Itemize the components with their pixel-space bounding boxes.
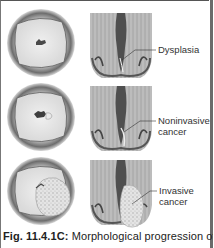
- tumor-mass: [120, 185, 143, 227]
- cervix-surface-view: [7, 83, 75, 151]
- label-line: cancer: [158, 127, 210, 138]
- caption-text: Morphological progression of: [69, 230, 214, 242]
- figure-number: Fig. 11.4.1C:: [3, 230, 69, 242]
- cervix-cross-section: [90, 86, 156, 151]
- figure-caption: Fig. 11.4.1C: Morphological progression …: [3, 230, 213, 242]
- panel-invasive: [7, 157, 157, 227]
- cervix-surface-view: [7, 9, 75, 77]
- label-line: cancer: [159, 197, 194, 208]
- cervix-cross-section: [90, 160, 157, 227]
- label-line: Noninvasive: [158, 116, 210, 127]
- label-line: Dysplasia: [158, 44, 199, 55]
- cervix-surface-view: [7, 157, 75, 225]
- panel-dysplasia: [7, 9, 156, 78]
- panel-noninvasive: [7, 83, 156, 151]
- label-noninvasive-cancer: Noninvasive cancer: [158, 116, 210, 137]
- cervix-cross-section: [90, 13, 156, 78]
- label-invasive-cancer: Invasive cancer: [159, 186, 194, 207]
- page-edge-rule: [210, 0, 213, 248]
- label-dysplasia: Dysplasia: [158, 45, 199, 56]
- label-line: Invasive: [159, 186, 194, 197]
